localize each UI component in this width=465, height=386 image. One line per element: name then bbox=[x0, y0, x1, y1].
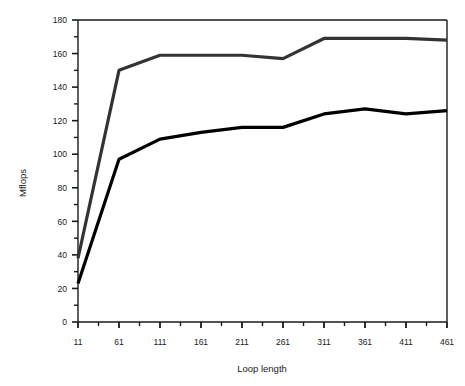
x-tick-label: 361 bbox=[358, 337, 372, 347]
y-tick-label: 20 bbox=[58, 284, 68, 294]
x-tick-label: 61 bbox=[114, 337, 124, 347]
y-tick-label: 180 bbox=[53, 15, 67, 25]
x-tick-label: 461 bbox=[440, 337, 454, 347]
x-axis-title: Loop length bbox=[237, 363, 287, 374]
x-tick-label: 161 bbox=[194, 337, 208, 347]
y-tick-label: 140 bbox=[53, 82, 67, 92]
y-tick-label: 100 bbox=[53, 149, 67, 159]
y-tick-label: 40 bbox=[58, 250, 68, 260]
x-tick-label: 111 bbox=[154, 337, 167, 347]
x-tick-label: 211 bbox=[235, 337, 249, 347]
x-tick-label: 411 bbox=[399, 337, 413, 347]
y-tick-label: 120 bbox=[53, 116, 67, 126]
y-tick-label: 0 bbox=[62, 317, 67, 327]
y-axis-title: Mflops bbox=[17, 169, 28, 197]
x-tick-label: 11 bbox=[74, 337, 83, 347]
line-chart: 020406080100120140160180 116111116121126… bbox=[0, 0, 465, 386]
chart-container: 020406080100120140160180 116111116121126… bbox=[0, 0, 465, 386]
y-tick-label: 80 bbox=[58, 183, 68, 193]
y-tick-label: 160 bbox=[53, 49, 67, 59]
y-tick-label: 60 bbox=[58, 217, 68, 227]
chart-background bbox=[0, 0, 465, 386]
x-tick-label: 311 bbox=[317, 337, 331, 347]
x-tick-label: 261 bbox=[276, 337, 290, 347]
